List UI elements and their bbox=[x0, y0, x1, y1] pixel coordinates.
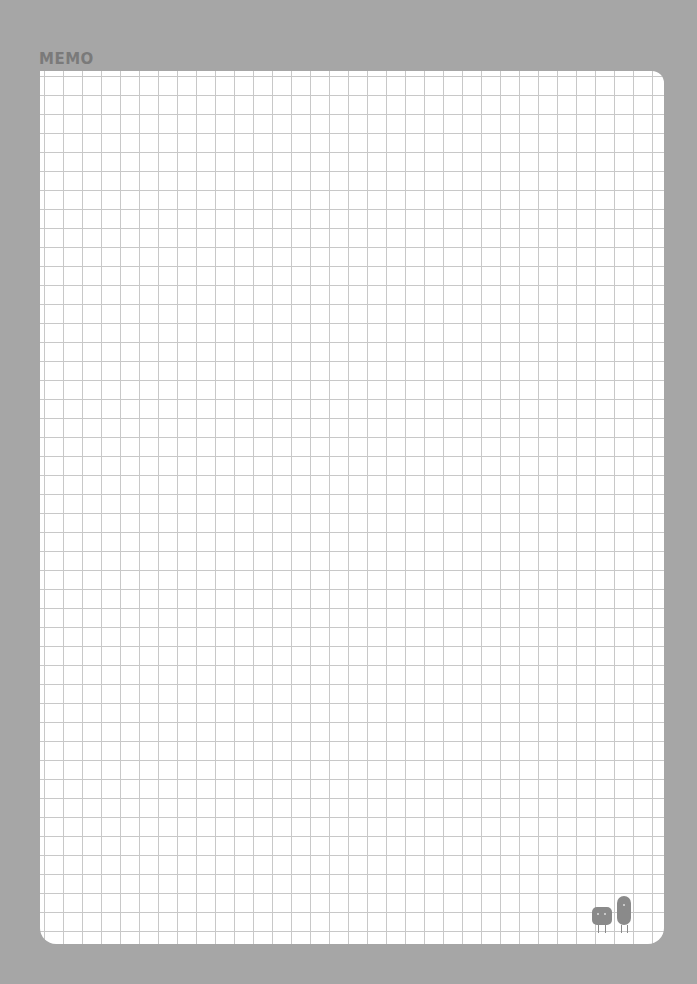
mascot-illustration bbox=[590, 896, 640, 940]
mascot-eye bbox=[604, 913, 606, 915]
pill-mascot-icon bbox=[617, 896, 631, 925]
mascot-leg bbox=[621, 925, 622, 933]
memo-title: MEMO bbox=[39, 50, 94, 68]
mascot-leg bbox=[605, 925, 606, 933]
mascot-eye bbox=[597, 913, 599, 915]
mascot-eye bbox=[623, 904, 625, 906]
grid-memo-sheet[interactable] bbox=[40, 71, 664, 944]
square-mascot-icon bbox=[592, 907, 612, 925]
mascot-leg bbox=[627, 925, 628, 933]
mascot-leg bbox=[598, 925, 599, 933]
